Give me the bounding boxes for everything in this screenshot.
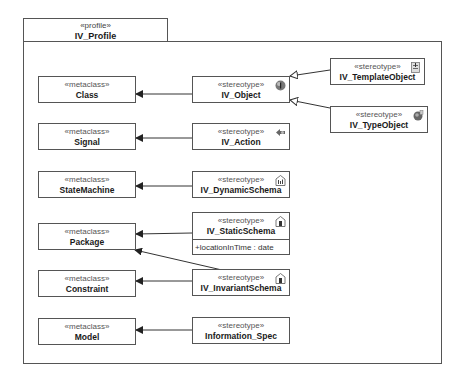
extension-static-schema-package[interactable] <box>136 233 192 234</box>
metaclass-name: Class <box>39 90 135 101</box>
metaclass-statemachine[interactable]: «metaclass» StateMachine <box>38 171 136 198</box>
metaclass-name: Constraint <box>39 284 135 295</box>
object-icon <box>275 80 286 91</box>
generalization-type-object[interactable] <box>290 100 330 108</box>
metaclass-stereotype: «metaclass» <box>39 322 135 332</box>
stereotype-iv-templateobject[interactable]: «stereotype» IV_TemplateObject <box>330 58 425 85</box>
dynamic-schema-icon <box>275 175 286 186</box>
stereotype-iv-typeobject[interactable]: «stereotype» IV_TypeObject <box>330 106 428 133</box>
stereotype-name: IV_DynamicSchema <box>193 185 289 196</box>
stereotype-name: Information_Spec <box>193 331 289 342</box>
stereotype-name: IV_TemplateObject <box>331 72 424 83</box>
attribute-location-in-time[interactable]: +locationInTime : date <box>193 239 289 255</box>
metaclass-model[interactable]: «metaclass» Model <box>38 318 136 345</box>
stereotype-name: IV_StaticSchema <box>193 226 289 237</box>
metaclass-stereotype: «metaclass» <box>39 80 135 90</box>
metaclass-stereotype: «metaclass» <box>39 127 135 137</box>
metaclass-constraint[interactable]: «metaclass» Constraint <box>38 270 136 297</box>
invariant-schema-icon <box>275 273 286 284</box>
metaclass-signal[interactable]: «metaclass» Signal <box>38 123 136 150</box>
metaclass-stereotype: «metaclass» <box>39 227 135 237</box>
static-schema-icon <box>275 216 286 227</box>
stereotype-name: IV_InvariantSchema <box>193 283 289 294</box>
stereotype-iv-action[interactable]: «stereotype» IV_Action <box>192 123 290 150</box>
template-object-icon <box>410 62 421 73</box>
stereotype-information-spec[interactable]: «stereotype» Information_Spec <box>192 317 290 344</box>
metaclass-class[interactable]: «metaclass» Class <box>38 76 136 103</box>
action-icon <box>275 127 286 138</box>
stereotype-iv-object[interactable]: «stereotype» IV_Object <box>192 76 290 103</box>
metaclass-name: Signal <box>39 137 135 148</box>
stereotype-name: IV_TypeObject <box>331 120 427 131</box>
stereotype-iv-dynamicschema[interactable]: «stereotype» IV_DynamicSchema <box>192 171 290 198</box>
stereotype-iv-staticschema[interactable]: «stereotype» IV_StaticSchema +locationIn… <box>192 212 290 255</box>
metaclass-stereotype: «metaclass» <box>39 175 135 185</box>
metaclass-name: StateMachine <box>39 185 135 196</box>
type-object-icon <box>413 110 424 121</box>
stereotype-iv-invariantschema[interactable]: «stereotype» IV_InvariantSchema <box>192 269 290 296</box>
metaclass-package[interactable]: «metaclass» Package <box>38 223 136 250</box>
generalization-template-object[interactable] <box>290 70 330 76</box>
stereotype-label: «stereotype» <box>193 321 289 331</box>
metaclass-stereotype: «metaclass» <box>39 274 135 284</box>
metaclass-name: Package <box>39 237 135 248</box>
stereotype-name: IV_Action <box>193 137 289 148</box>
metaclass-name: Model <box>39 332 135 343</box>
stereotype-name: IV_Object <box>193 90 289 101</box>
